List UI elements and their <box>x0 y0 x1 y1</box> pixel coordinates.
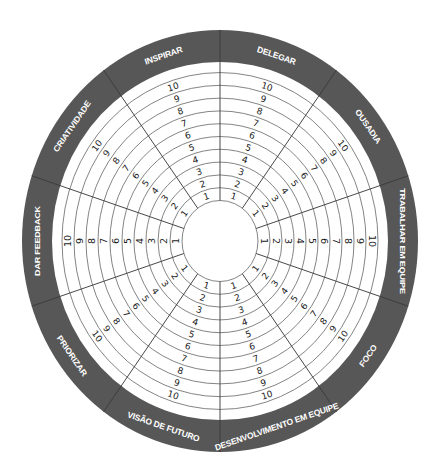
wheel-svg: 12345678910DELEGAR12345678910OUSADIA1234… <box>0 0 439 475</box>
scale-number: 9 <box>355 238 364 244</box>
segment-label: DAR FEEDBACK <box>32 205 41 276</box>
scale-number: 3 <box>147 238 156 244</box>
scale-number: 1 <box>259 238 268 244</box>
scale-number: 1 <box>171 238 180 244</box>
segment-label: TRABALHAR EM EQUIPE <box>398 188 407 294</box>
scale-number: 6 <box>319 238 328 244</box>
scale-number: 3 <box>283 238 292 244</box>
scale-number: 4 <box>135 238 144 244</box>
scale-number: 6 <box>111 238 120 244</box>
scale-number: 7 <box>331 238 340 244</box>
scale-number: 8 <box>343 238 352 244</box>
scale-number: 4 <box>295 238 304 244</box>
scale-number: 2 <box>271 238 280 244</box>
scale-number: 5 <box>307 238 316 244</box>
scale-number: 7 <box>99 238 108 244</box>
scale-number: 10 <box>367 235 376 247</box>
scale-number: 8 <box>87 238 96 244</box>
scale-number: 2 <box>159 238 168 244</box>
scale-number: 9 <box>75 238 84 244</box>
scale-number: 5 <box>123 238 132 244</box>
scale-number: 10 <box>63 235 72 247</box>
